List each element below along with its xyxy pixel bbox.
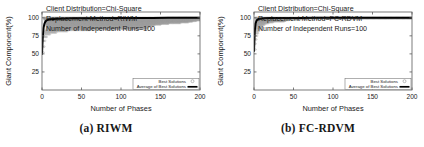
annotation-client-distribution: Client Distribution=Chi-Square bbox=[258, 5, 354, 13]
x-tick-label: 50 bbox=[290, 93, 298, 100]
y-tick-label: 50 bbox=[32, 50, 40, 57]
y-tick-label: 100 bbox=[28, 14, 39, 21]
annotation-client-distribution: Client Distribution=Chi-Square bbox=[46, 5, 142, 13]
y-axis-title: Giant Component(%) bbox=[4, 16, 13, 85]
annotation-replacement-method: Replacement Method=RIWM bbox=[46, 15, 137, 23]
subcaption-riwm: (a) RIWM bbox=[0, 122, 212, 134]
x-tick-label: 50 bbox=[78, 93, 86, 100]
annotation-independent-runs: Number of Independent Runs=100 bbox=[258, 25, 367, 33]
x-tick-label: 0 bbox=[40, 93, 44, 100]
x-tick-label: 0 bbox=[252, 93, 256, 100]
y-tick-label: 75 bbox=[244, 32, 252, 39]
chart-panel-riwm: 050100150200 255075100 Client Distributi… bbox=[0, 0, 212, 147]
x-tick-label: 150 bbox=[367, 93, 378, 100]
chart-panel-fcrdvm: 050100150200 255075100 Client Distributi… bbox=[212, 0, 424, 147]
plot-area-fcrdvm: 050100150200 255075100 Client Distributi… bbox=[212, 0, 424, 122]
legend-label-best-solutions: Best Solutions bbox=[371, 79, 398, 84]
subcaption-fcrdvm: (b) FC-RDVM bbox=[212, 122, 424, 134]
x-tick-label: 200 bbox=[194, 93, 205, 100]
legend-riwm: Best Solutions Average of Best Solutions bbox=[133, 79, 199, 90]
annotation-replacement-method: Replacement Method=FC-RDVM bbox=[258, 15, 362, 23]
x-tick-label: 100 bbox=[115, 93, 126, 100]
y-axis-title: Giant Component(%) bbox=[216, 16, 225, 85]
x-tick-label: 100 bbox=[327, 93, 338, 100]
y-tick-label: 100 bbox=[240, 14, 251, 21]
legend-fcrdvm: Best Solutions Average of Best Solutions bbox=[345, 79, 411, 90]
y-tick-label: 50 bbox=[244, 50, 252, 57]
y-tick-label: 25 bbox=[244, 68, 252, 75]
figure-two-panel: 050100150200 255075100 Client Distributi… bbox=[0, 0, 424, 147]
legend-label-best-solutions: Best Solutions bbox=[159, 79, 186, 84]
y-tick-label: 25 bbox=[32, 68, 40, 75]
x-tick-label: 150 bbox=[155, 93, 166, 100]
legend-label-average-best-solutions: Average of Best Solutions bbox=[137, 84, 186, 89]
legend-label-average-best-solutions: Average of Best Solutions bbox=[349, 84, 398, 89]
x-tick-label: 200 bbox=[406, 93, 417, 100]
annotation-independent-runs: Number of Independent Runs=100 bbox=[46, 25, 155, 33]
chart-svg-riwm: 050100150200 255075100 Client Distributi… bbox=[0, 0, 212, 122]
plot-area-riwm: 050100150200 255075100 Client Distributi… bbox=[0, 0, 212, 122]
x-axis-title: Number of Phases bbox=[302, 104, 364, 113]
chart-svg-fcrdvm: 050100150200 255075100 Client Distributi… bbox=[212, 0, 424, 122]
y-tick-label: 75 bbox=[32, 32, 40, 39]
x-axis-title: Number of Phases bbox=[90, 104, 152, 113]
